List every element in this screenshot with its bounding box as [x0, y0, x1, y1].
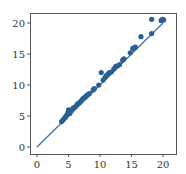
- data-point: [149, 31, 154, 36]
- x-tick-label: 5: [65, 159, 71, 170]
- x-tick-label: 20: [157, 159, 170, 170]
- data-point: [117, 62, 122, 67]
- data-point: [149, 17, 154, 22]
- data-point: [161, 17, 166, 22]
- y-tick-label: 15: [12, 49, 25, 60]
- x-tick-label: 10: [94, 159, 107, 170]
- y-tick-label: 10: [12, 80, 25, 91]
- x-tick-label: 15: [125, 159, 138, 170]
- data-point: [121, 56, 126, 61]
- data-point: [87, 91, 92, 96]
- scatter-chart: 05101520 05101520: [0, 0, 186, 174]
- x-tick-label: 0: [34, 159, 40, 170]
- y-axis: 05101520: [12, 18, 30, 153]
- y-tick-label: 20: [12, 18, 25, 29]
- data-point: [128, 50, 133, 55]
- data-point: [96, 82, 101, 87]
- data-point: [133, 45, 138, 50]
- data-point: [92, 86, 97, 91]
- x-axis: 05101520: [34, 154, 170, 170]
- y-tick-label: 5: [19, 111, 25, 122]
- data-point: [99, 70, 104, 75]
- y-tick-label: 0: [19, 142, 25, 153]
- plot-area-frame: [31, 14, 177, 155]
- data-point: [138, 34, 143, 39]
